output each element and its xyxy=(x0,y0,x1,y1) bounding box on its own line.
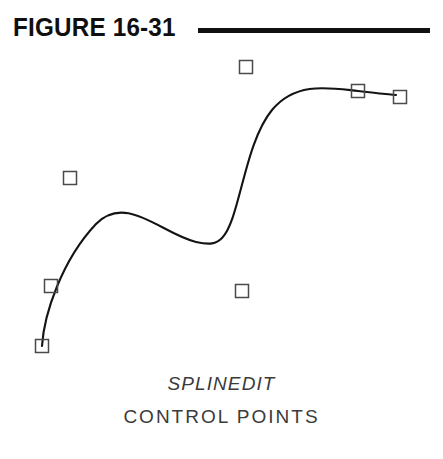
title-rule-divider xyxy=(198,28,430,33)
caption-subtitle: CONTROL POINTS xyxy=(0,405,443,429)
caption-block: SPLINEDIT CONTROL POINTS xyxy=(0,372,443,429)
control-point-handle-2[interactable] xyxy=(64,172,77,185)
page-title: FIGURE 16-31 xyxy=(13,13,176,41)
spline-drawing-canvas xyxy=(0,48,443,368)
control-point-markers xyxy=(36,61,407,353)
control-point-handle-3[interactable] xyxy=(240,61,253,74)
control-point-handle-4[interactable] xyxy=(236,285,249,298)
spline-curve xyxy=(42,88,396,346)
caption-command-name: SPLINEDIT xyxy=(0,372,443,396)
figure-page: FIGURE 16-31 SPLINEDIT CONTROL POINTS xyxy=(0,0,443,459)
control-point-handle-6[interactable] xyxy=(394,91,407,104)
figure-header: FIGURE 16-31 xyxy=(0,0,443,48)
